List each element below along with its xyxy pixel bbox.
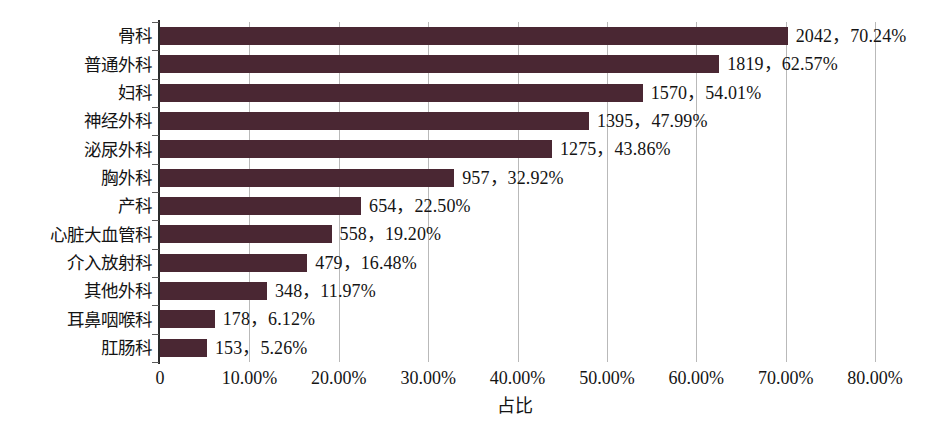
bar [160,84,643,102]
bar-data-label: 1819，62.57% [727,51,838,77]
bar [160,339,207,357]
x-axis-tick-label: 50.00% [579,366,635,390]
bar-data-label: 178，6.12% [223,306,315,332]
y-axis-tick [152,107,159,108]
category-label: 神经外科 [2,109,152,133]
x-axis-tick-label: 70.00% [758,366,814,390]
bar [160,225,332,243]
y-axis-tick [152,249,159,250]
category-label: 耳鼻咽喉科 [2,308,152,332]
bar [160,282,267,300]
y-axis-tick [152,135,159,136]
bar-row: 1570，54.01% [160,79,875,107]
bar-row: 348，11.97% [160,277,875,305]
bar-row: 957，32.92% [160,164,875,192]
bar [160,197,361,215]
x-axis-tick-label: 60.00% [669,366,725,390]
gridline-80.00 [875,22,876,362]
category-label: 心脏大血管科 [2,223,152,247]
y-axis-tick [152,305,159,306]
bar-row: 1819，62.57% [160,50,875,78]
x-axis-tick-label: 30.00% [400,366,456,390]
bar [160,27,788,45]
bar-data-label: 558，19.20% [340,221,442,247]
bar-row: 479，16.48% [160,249,875,277]
x-axis-tick-label: 40.00% [490,366,546,390]
bar-data-label: 1570，54.01% [651,80,762,106]
bar [160,169,454,187]
y-axis-tick [152,192,159,193]
bar-chart: 2042，70.24%1819，62.57%1570，54.01%1395，47… [0,0,946,428]
bar-data-label: 1395，47.99% [597,108,708,134]
y-axis-tick [152,277,159,278]
bar-data-label: 1275，43.86% [560,136,671,162]
bar-row: 558，19.20% [160,220,875,248]
x-axis-tick-label: 80.00% [847,366,903,390]
bar-row: 654，22.50% [160,192,875,220]
bar-row: 178，6.12% [160,305,875,333]
category-label: 介入放射科 [2,251,152,275]
category-labels: 骨科普通外科妇科神经外科泌尿外科胸外科产科心脏大血管科介入放射科其他外科耳鼻咽喉… [0,22,152,362]
bar-row: 1395，47.99% [160,107,875,135]
bar-row: 1275，43.86% [160,135,875,163]
category-label: 胸外科 [2,166,152,190]
category-label: 骨科 [2,24,152,48]
category-label: 泌尿外科 [2,138,152,162]
bar-data-label: 348，11.97% [275,278,376,304]
category-label: 肛肠科 [2,336,152,360]
category-label: 产科 [2,194,152,218]
y-axis-tick [152,220,159,221]
y-axis-tick [152,79,159,80]
category-label: 其他外科 [2,279,152,303]
category-label: 普通外科 [2,53,152,77]
x-axis-tick-label: 0 [156,366,165,390]
y-axis-tick [152,164,159,165]
bar-row: 2042，70.24% [160,22,875,50]
category-label: 妇科 [2,81,152,105]
x-axis-title: 占比 [497,394,533,418]
plot-area: 2042，70.24%1819，62.57%1570，54.01%1395，47… [160,22,875,362]
bar-row: 153，5.26% [160,334,875,362]
bar-data-label: 479，16.48% [315,250,417,276]
bar [160,112,589,130]
y-axis-tick [152,22,159,23]
x-axis-tick-label: 10.00% [222,366,278,390]
y-axis-tick [152,334,159,335]
bar-data-label: 957，32.92% [462,165,564,191]
y-axis-tick [152,50,159,51]
bar-data-label: 2042，70.24% [796,23,907,49]
bar [160,55,719,73]
bar [160,310,215,328]
bar-data-label: 153，5.26% [215,335,307,361]
x-axis-tick-label: 20.00% [311,366,367,390]
y-axis-tick [152,362,159,363]
bar [160,140,552,158]
bar [160,254,307,272]
bar-data-label: 654，22.50% [369,193,471,219]
